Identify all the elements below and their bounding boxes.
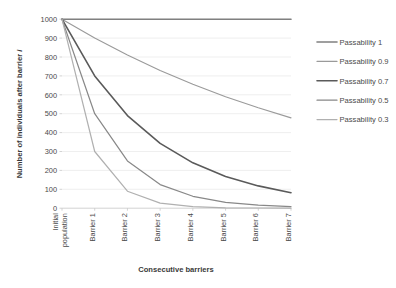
x-tick-label: Barrier 6 (251, 213, 260, 241)
y-tick-label: 300 (45, 147, 57, 156)
legend-label-0: Passability 1 (340, 38, 383, 47)
x-tick-label: Barrier 4 (186, 213, 195, 241)
y-tick-label: 700 (45, 72, 57, 81)
line-chart-svg: 01002003004005006007008009001000 Initial… (0, 0, 396, 288)
y-tick-label: 0 (53, 204, 57, 213)
y-axis-title: Number of individuals after barrier i (15, 49, 24, 179)
x-tick-label: Barrier 3 (153, 213, 162, 241)
y-tick-label: 600 (45, 91, 57, 100)
legend-label-1: Passability 0.9 (340, 57, 389, 66)
x-tick-label: Initial (51, 213, 60, 231)
x-tick-label: Barrier 5 (219, 213, 228, 241)
y-tick-label: 1000 (41, 15, 57, 24)
x-axis-title: Consecutive barriers (138, 265, 214, 274)
x-tick-label: Barrier 7 (284, 213, 293, 241)
x-tick-label: Barrier 1 (88, 213, 97, 241)
y-tick-label: 400 (45, 128, 57, 137)
x-tick-label: Barrier 2 (120, 213, 129, 241)
legend-label-2: Passability 0.7 (340, 77, 389, 86)
legend-label-4: Passability 0.3 (340, 115, 389, 124)
legend-label-3: Passability 0.5 (340, 96, 389, 105)
y-tick-label: 800 (45, 53, 57, 62)
chart-figure: 01002003004005006007008009001000 Initial… (0, 0, 396, 288)
y-tick-label: 500 (45, 109, 57, 118)
y-tick-label: 200 (45, 166, 57, 175)
y-tick-label: 900 (45, 34, 57, 43)
x-tick-label: population (60, 213, 69, 247)
y-tick-label: 100 (45, 185, 57, 194)
